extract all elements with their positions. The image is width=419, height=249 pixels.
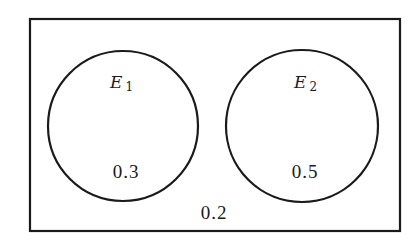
set-e2-label: E2 [293, 72, 317, 94]
set-e2-probability: 0.5 [292, 161, 319, 182]
set-e1-probability: 0.3 [113, 161, 140, 182]
sample-space-rectangle [30, 19, 400, 231]
set-e1-subscript: 1 [125, 80, 133, 94]
set-e2-name: E [293, 72, 307, 92]
set-e1-name: E [109, 72, 123, 92]
outside-probability: 0.2 [201, 202, 228, 223]
set-e1: E1 0.3 [48, 51, 198, 201]
set-e2-subscript: 2 [309, 80, 317, 94]
venn-diagram: E1 0.3 E2 0.5 0.2 [0, 0, 419, 249]
set-e2: E2 0.5 [226, 50, 378, 202]
set-e1-label: E1 [109, 72, 133, 94]
